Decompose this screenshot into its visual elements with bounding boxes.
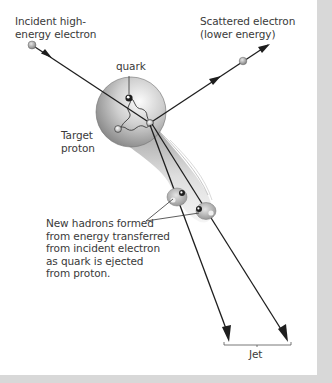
target-proton-label: Target proton (61, 129, 95, 154)
scattered-electron-label: Scattered electron (lower energy) (200, 15, 295, 40)
arrowhead-icon (209, 76, 221, 85)
scattered-electron-track (150, 44, 270, 123)
scattered-electron-ball-icon (239, 57, 247, 65)
incident-electron-label: Incident high- energy electron (15, 15, 96, 40)
scattering-diagram (0, 0, 332, 383)
quark-label: quark (116, 60, 146, 73)
incident-electron-ball-icon (28, 41, 36, 49)
proton-sphere-icon (96, 77, 166, 147)
arrowhead-icon (258, 44, 270, 53)
new-hadrons-label: New hadrons formed from energy transferr… (46, 217, 170, 280)
jet-label: Jet (249, 348, 262, 361)
arrowhead-icon (41, 49, 52, 58)
jet-bracket (224, 342, 291, 347)
arrowhead-icon (222, 325, 231, 342)
